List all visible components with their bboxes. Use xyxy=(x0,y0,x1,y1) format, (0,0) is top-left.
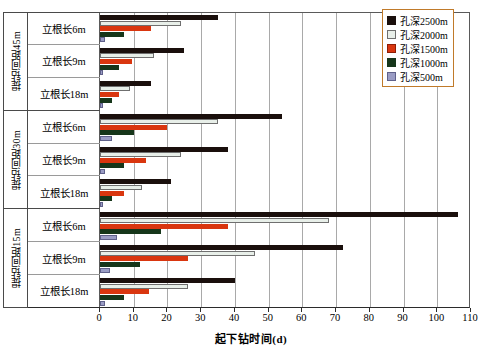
x-axis-tick-labels: 0102030405060708090100110 xyxy=(0,312,502,328)
legend-swatch-icon xyxy=(387,44,396,53)
x-axis-tick-label: 80 xyxy=(364,312,375,323)
row-label: 立根长18m xyxy=(28,275,100,308)
legend-label: 孔深500m xyxy=(400,69,443,84)
x-axis-tick-label: 50 xyxy=(262,312,273,323)
legend-item: 孔深2000m xyxy=(387,27,448,41)
row-label: 立根长9m xyxy=(28,45,100,78)
row-label: 立根长9m xyxy=(28,144,100,177)
legend-swatch-icon xyxy=(387,30,396,39)
x-axis-tick-label: 110 xyxy=(462,312,477,323)
row-label: 立根长6m xyxy=(28,111,100,144)
legend-swatch-icon xyxy=(387,58,396,67)
group-label-cell: 提钻间距15m xyxy=(4,209,28,308)
x-axis-tick-label: 100 xyxy=(428,312,444,323)
x-axis-tick-label: 90 xyxy=(397,312,408,323)
group-label: 提钻间距15m xyxy=(9,228,24,288)
gridline xyxy=(336,13,337,307)
legend-item: 孔深1500m xyxy=(387,41,448,55)
legend: 孔深2500m孔深2000m孔深1500m孔深1000m孔深500m xyxy=(382,9,454,87)
gridline xyxy=(201,13,202,307)
legend-label: 孔深2000m xyxy=(400,27,448,42)
legend-item: 孔深2500m xyxy=(387,13,448,27)
x-axis-tick-label: 40 xyxy=(229,312,240,323)
legend-label: 孔深1000m xyxy=(400,55,448,70)
row-label-column: 立根长6m立根长9m立根长18m立根长6m立根长9m立根长18m立根长6m立根长… xyxy=(27,12,99,308)
legend-label: 孔深2500m xyxy=(400,13,448,28)
legend-swatch-icon xyxy=(387,72,396,81)
row-label: 立根长6m xyxy=(28,209,100,242)
row-label: 立根长6m xyxy=(28,12,100,45)
x-axis-title: 起下钻时间(d) xyxy=(0,330,502,346)
legend-swatch-icon xyxy=(387,16,396,25)
gridline xyxy=(269,13,270,307)
gridline xyxy=(134,13,135,307)
x-axis-tick-label: 20 xyxy=(161,312,172,323)
x-axis-tick-label: 10 xyxy=(127,312,138,323)
group-label: 提钻间距45m xyxy=(9,31,24,91)
group-label-cell: 提钻间距45m xyxy=(4,12,28,111)
row-label: 立根长9m xyxy=(28,242,100,275)
row-label: 立根长18m xyxy=(28,78,100,111)
legend-item: 孔深1000m xyxy=(387,55,448,69)
legend-item: 孔深500m xyxy=(387,69,448,83)
x-axis-tick-label: 60 xyxy=(296,312,307,323)
gridline xyxy=(235,13,236,307)
group-label-column: 提钻间距45m提钻间距30m提钻间距15m xyxy=(3,12,27,308)
bar-chart: 提钻间距45m提钻间距30m提钻间距15m 立根长6m立根长9m立根长18m立根… xyxy=(0,0,502,355)
group-label-cell: 提钻间距30m xyxy=(4,111,28,210)
gridline xyxy=(370,13,371,307)
gridline xyxy=(302,13,303,307)
x-axis-tick-label: 0 xyxy=(96,312,101,323)
legend-label: 孔深1500m xyxy=(400,41,448,56)
x-axis-tick-label: 30 xyxy=(195,312,206,323)
row-label: 立根长18m xyxy=(28,176,100,209)
gridline xyxy=(167,13,168,307)
x-axis-tick-label: 70 xyxy=(330,312,341,323)
group-label: 提钻间距30m xyxy=(9,130,24,190)
